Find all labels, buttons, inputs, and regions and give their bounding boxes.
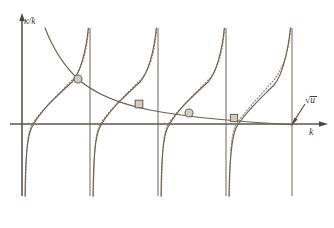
cot-branch-4	[230, 28, 291, 196]
axes-group	[10, 13, 328, 196]
graphical-solution-plot	[0, 0, 334, 228]
intersection-marker-square-2	[135, 100, 143, 108]
asymptote-group	[22, 16, 292, 196]
intersection-marker-group	[74, 75, 238, 122]
kappa-over-k-curve	[45, 28, 292, 125]
sqrt-radicand: u	[310, 95, 315, 105]
intersection-marker-circle-1	[74, 75, 82, 83]
sqrt-u-annotation-label: √u	[305, 95, 315, 106]
y-axis-label: κ/k	[24, 17, 35, 27]
sqrt-overbar	[310, 96, 317, 97]
x-axis-label: k	[309, 127, 313, 137]
tan-branch-2	[93, 28, 156, 196]
sqrt-u-glyph: √u	[305, 95, 315, 106]
cot-branch-2	[94, 28, 157, 196]
x-axis-arrow-icon	[319, 121, 328, 127]
intersection-marker-square-4	[230, 114, 237, 121]
tan-branch-4	[229, 28, 290, 196]
intersection-marker-circle-3	[185, 109, 193, 117]
